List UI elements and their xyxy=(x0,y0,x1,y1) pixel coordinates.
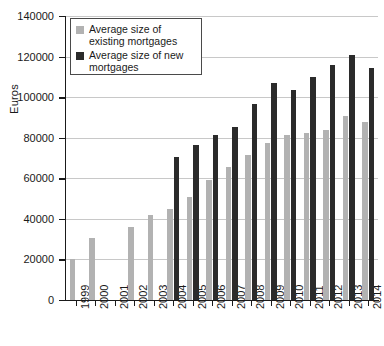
x-tick-mark xyxy=(76,301,77,306)
legend-entry-new: Average size of new mortgages xyxy=(76,50,197,73)
y-tick-label: 0 xyxy=(0,295,54,306)
x-tick-mark xyxy=(349,301,350,306)
y-tick-label: 20000 xyxy=(0,254,54,265)
legend-swatch-new-icon xyxy=(76,52,84,60)
y-tick-mark xyxy=(59,219,65,220)
y-tick-mark xyxy=(59,16,65,17)
x-tick-mark xyxy=(173,301,174,306)
bar xyxy=(343,116,348,300)
x-tick-mark xyxy=(154,301,155,306)
y-tick-label: 60000 xyxy=(0,173,54,184)
bar xyxy=(232,127,237,300)
y-tick-mark xyxy=(59,259,65,260)
y-tick-label: 40000 xyxy=(0,214,54,225)
bar xyxy=(291,90,296,300)
bar xyxy=(271,83,276,300)
bar xyxy=(187,197,192,300)
bar xyxy=(148,215,153,300)
x-tick-mark xyxy=(212,301,213,306)
bar xyxy=(128,227,133,300)
gridline xyxy=(66,16,378,17)
x-tick-mark xyxy=(134,301,135,306)
bar xyxy=(70,259,75,300)
bar xyxy=(193,145,198,300)
bar xyxy=(89,238,94,300)
x-tick-mark xyxy=(329,301,330,306)
x-tick-mark xyxy=(251,301,252,306)
y-tick-mark xyxy=(59,138,65,139)
y-tick-mark xyxy=(59,178,65,179)
y-tick-mark xyxy=(59,300,65,301)
bar xyxy=(323,130,328,300)
bar xyxy=(252,104,257,300)
x-tick-mark xyxy=(290,301,291,306)
bar xyxy=(245,155,250,300)
bar xyxy=(226,167,231,300)
bar xyxy=(213,135,218,300)
bar-chart: Euros 0200004000060000800001000001200001… xyxy=(0,0,384,346)
legend-swatch-existing-icon xyxy=(76,26,84,34)
bar xyxy=(304,133,309,300)
bar xyxy=(284,135,289,300)
legend-label-existing: Average size of existing mortgages xyxy=(89,24,197,47)
bar xyxy=(265,143,270,300)
x-tick-mark xyxy=(368,301,369,306)
x-tick-mark xyxy=(193,301,194,306)
bar xyxy=(349,55,354,300)
bar xyxy=(369,68,374,300)
legend-label-new: Average size of new mortgages xyxy=(89,50,197,73)
chart-legend: Average size of existing mortgages Avera… xyxy=(70,18,202,75)
y-tick-mark xyxy=(59,97,65,98)
bar xyxy=(167,209,172,300)
bar xyxy=(206,180,211,300)
bar xyxy=(330,65,335,300)
x-tick-mark xyxy=(115,301,116,306)
x-tick-mark xyxy=(95,301,96,306)
x-tick-mark xyxy=(310,301,311,306)
y-tick-mark xyxy=(59,57,65,58)
x-tick-mark xyxy=(232,301,233,306)
x-tick-mark xyxy=(271,301,272,306)
bar xyxy=(310,77,315,300)
bar xyxy=(174,157,179,300)
y-tick-label: 140000 xyxy=(0,11,54,22)
y-tick-label: 100000 xyxy=(0,92,54,103)
y-tick-label: 80000 xyxy=(0,133,54,144)
y-tick-label: 120000 xyxy=(0,52,54,63)
legend-entry-existing: Average size of existing mortgages xyxy=(76,24,197,47)
bar xyxy=(362,122,367,301)
